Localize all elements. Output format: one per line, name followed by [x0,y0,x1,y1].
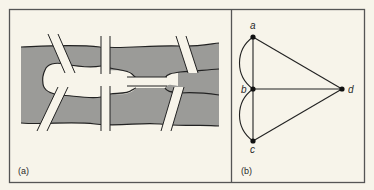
node-a [250,34,255,39]
panel-b-graph: a b c d (b) [240,20,355,176]
edge-c-d [253,89,342,141]
node-d [339,86,344,91]
panel-a-river-map: (a) [18,34,219,176]
node-b-label: b [241,84,247,95]
panel-a-label: (a) [18,166,29,176]
panel-b-label: (b) [241,166,252,176]
bridge-4 [101,86,110,131]
bridge-5 [127,77,167,86]
edge-b-c-curved [240,89,254,141]
node-b [250,86,255,91]
edge-a-d [253,37,342,89]
bridge-3 [101,36,110,74]
node-d-label: d [348,84,354,95]
node-c-label: c [250,144,255,155]
edge-a-b-curved [240,37,254,89]
node-c [250,138,255,143]
node-a-label: a [250,20,256,31]
figure: (a) a b c d (b) [0,0,374,190]
